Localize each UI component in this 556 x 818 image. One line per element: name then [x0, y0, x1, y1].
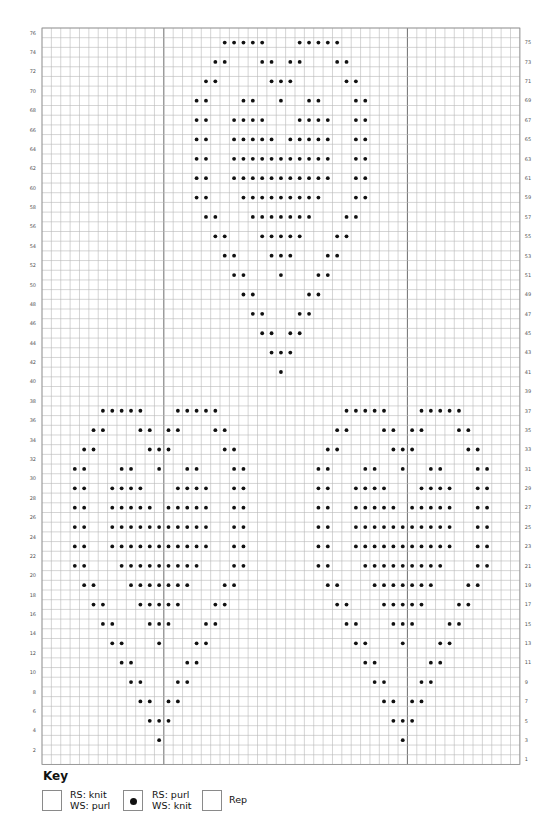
purl-stitch-dot — [345, 603, 349, 607]
purl-stitch-dot — [82, 525, 86, 529]
row-label-left: 2 — [33, 747, 36, 753]
purl-stitch-dot — [438, 467, 442, 471]
purl-stitch-dot — [232, 506, 236, 510]
purl-stitch-dot — [260, 157, 264, 161]
purl-stitch-dot — [232, 467, 236, 471]
purl-stitch-dot — [335, 583, 339, 587]
purl-stitch-dot — [326, 273, 330, 277]
purl-stitch-dot — [260, 176, 264, 180]
purl-stitch-dot — [382, 506, 386, 510]
purl-stitch-dot — [438, 506, 442, 510]
purl-stitch-dot — [363, 564, 367, 568]
purl-stitch-dot — [429, 545, 433, 549]
purl-stitch-dot — [345, 60, 349, 64]
row-label-left: 20 — [30, 572, 36, 578]
purl-stitch-dot — [242, 467, 246, 471]
purl-stitch-dot — [410, 448, 414, 452]
row-label-right: 23 — [525, 543, 531, 549]
purl-stitch-dot — [298, 331, 302, 335]
purl-stitch-dot — [326, 176, 330, 180]
purl-stitch-dot — [391, 700, 395, 704]
key-rep-label: Rep — [229, 795, 247, 806]
row-label-left: 38 — [30, 398, 36, 404]
purl-stitch-dot — [148, 583, 152, 587]
purl-stitch-dot — [363, 661, 367, 665]
purl-stitch-dot — [148, 525, 152, 529]
purl-stitch-dot — [260, 138, 264, 142]
row-label-left: 76 — [30, 30, 36, 36]
purl-stitch-dot — [251, 157, 255, 161]
purl-stitch-dot — [129, 525, 133, 529]
purl-stitch-dot — [373, 409, 377, 413]
purl-stitch-dot — [279, 234, 283, 238]
purl-stitch-dot — [195, 525, 199, 529]
purl-stitch-dot — [476, 583, 480, 587]
row-label-left: 44 — [30, 340, 36, 346]
row-label-right: 29 — [525, 485, 531, 491]
purl-stitch-dot — [382, 428, 386, 432]
purl-stitch-dot — [288, 331, 292, 335]
purl-stitch-dot — [298, 312, 302, 316]
purl-stitch-dot — [148, 622, 152, 626]
purl-stitch-dot — [298, 118, 302, 122]
purl-stitch-dot — [157, 622, 161, 626]
purl-stitch-dot — [363, 196, 367, 200]
purl-stitch-dot — [195, 641, 199, 645]
purl-stitch-dot — [185, 525, 189, 529]
key-knit-rs: RS: knit — [70, 790, 110, 801]
purl-stitch-dot — [157, 448, 161, 452]
purl-stitch-dot — [251, 41, 255, 45]
purl-stitch-dot — [82, 467, 86, 471]
row-label-left: 66 — [30, 127, 36, 133]
purl-stitch-dot — [288, 254, 292, 258]
purl-stitch-dot — [176, 564, 180, 568]
purl-stitch-dot — [167, 700, 171, 704]
purl-stitch-dot — [223, 60, 227, 64]
purl-stitch-dot — [148, 506, 152, 510]
purl-stitch-dot — [129, 583, 133, 587]
purl-stitch-dot — [363, 486, 367, 490]
purl-stitch-dot — [354, 641, 358, 645]
purl-stitch-dot — [204, 409, 208, 413]
purl-stitch-dot — [326, 448, 330, 452]
purl-stitch-dot — [307, 176, 311, 180]
purl-stitch-dot — [242, 506, 246, 510]
purl-stitch-dot — [232, 273, 236, 277]
purl-stitch-dot — [457, 603, 461, 607]
purl-stitch-dot — [185, 467, 189, 471]
purl-stitch-dot — [485, 525, 489, 529]
purl-stitch-dot — [345, 409, 349, 413]
purl-stitch-dot — [457, 622, 461, 626]
purl-stitch-dot — [157, 467, 161, 471]
purl-stitch-dot — [391, 545, 395, 549]
purl-stitch-dot — [410, 506, 414, 510]
purl-stitch-dot — [242, 273, 246, 277]
purl-stitch-dot — [354, 215, 358, 219]
purl-stitch-dot — [82, 564, 86, 568]
purl-stitch-dot — [420, 486, 424, 490]
purl-stitch-dot — [213, 409, 217, 413]
purl-stitch-dot — [213, 622, 217, 626]
purl-stitch-dot — [401, 583, 405, 587]
purl-stitch-dot — [317, 273, 321, 277]
purl-stitch-dot — [363, 506, 367, 510]
purl-stitch-dot — [138, 700, 142, 704]
purl-stitch-dot — [363, 176, 367, 180]
purl-stitch-dot — [204, 525, 208, 529]
purl-stitch-dot — [298, 60, 302, 64]
row-label-left: 54 — [30, 243, 36, 249]
purl-stitch-dot — [232, 525, 236, 529]
purl-stitch-dot — [457, 409, 461, 413]
purl-stitch-dot — [429, 680, 433, 684]
purl-stitch-dot — [298, 234, 302, 238]
row-label-left: 6 — [33, 708, 36, 714]
purl-stitch-dot — [485, 506, 489, 510]
purl-stitch-dot — [204, 176, 208, 180]
purl-stitch-dot — [326, 254, 330, 258]
purl-stitch-dot — [73, 525, 77, 529]
purl-stitch-dot — [129, 545, 133, 549]
row-label-left: 64 — [30, 146, 36, 152]
knit-symbol-icon — [42, 790, 62, 811]
row-label-left: 60 — [30, 185, 36, 191]
purl-stitch-dot — [157, 641, 161, 645]
